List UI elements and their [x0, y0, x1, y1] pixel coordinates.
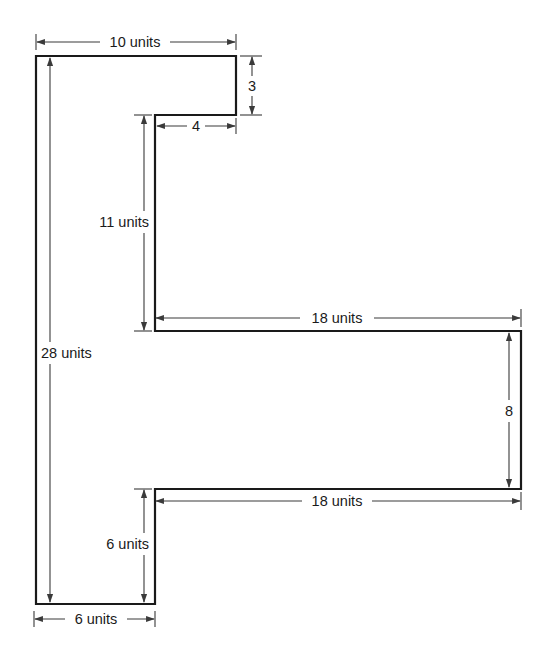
label-lower-inner-height: 6 units [106, 536, 149, 552]
dimension-flange-height: 8 [501, 333, 517, 487]
dimension-top-width: 10 units [36, 32, 236, 52]
dimension-flange-bottom-length: 18 units [156, 491, 521, 511]
dimension-notch-width: 4 [157, 117, 236, 135]
label-tab-height: 3 [248, 78, 256, 94]
dimension-base-width: 6 units [34, 609, 155, 629]
label-base-width: 6 units [75, 611, 118, 627]
dimension-upper-inner-height: 11 units [84, 115, 152, 331]
label-total-height: 28 units [41, 345, 92, 361]
label-flange-height: 8 [505, 403, 513, 419]
label-upper-inner-height: 11 units [99, 214, 149, 230]
label-flange-top-length: 18 units [312, 310, 363, 326]
dimension-tab-height: 3 [240, 56, 262, 115]
label-notch-width: 4 [192, 118, 200, 134]
dimension-lower-inner-height: 6 units [92, 489, 152, 602]
f-shape-diagram: 10 units 3 4 11 units 28 units 18 units [0, 0, 550, 659]
shape-outline [36, 56, 521, 604]
dimension-total-height: 28 units [40, 58, 112, 602]
dimension-flange-top-length: 18 units [156, 308, 521, 328]
label-flange-bottom-length: 18 units [312, 493, 363, 509]
label-top-width: 10 units [110, 34, 161, 50]
